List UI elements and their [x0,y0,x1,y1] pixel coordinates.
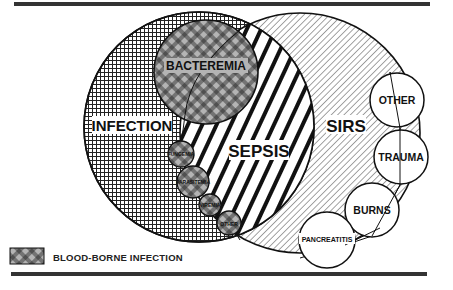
viremia-label: VIREMIA [200,202,221,208]
parasitemia-label: PARASITEMIA [176,179,210,185]
burns-label: BURNS [353,204,390,216]
other-blood-label: OTHER [220,221,238,227]
top-rule [14,2,430,6]
sepsis-label: SEPSIS [228,142,289,161]
legend-swatch [10,248,44,264]
other-cause-label: OTHER [379,94,416,106]
trauma-label: TRAUMA [378,151,424,163]
bottom-rule [11,272,427,276]
sirs-label: SIRS [326,117,366,136]
fungemia-label: FUNGEMIA [168,151,195,157]
bacteremia-label: BACTEREMIA [166,59,246,73]
legend-label: BLOOD-BORNE INFECTION [53,252,183,263]
infection-label: INFECTION [92,117,173,134]
pancreatitis-label: PANCREATITIS [302,236,353,243]
sepsis-venn-diagram: BACTEREMIA INFECTION SEPSIS SIRS FUNGEMI… [0,0,453,290]
